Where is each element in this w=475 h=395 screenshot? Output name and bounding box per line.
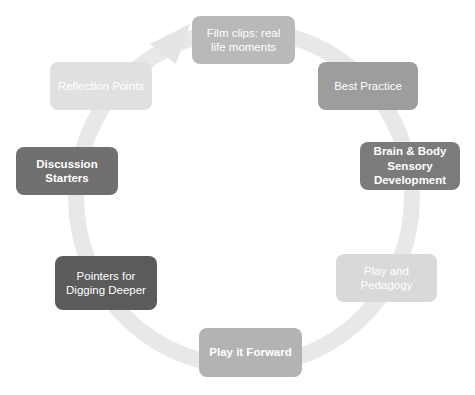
node-best-practice: Best Practice: [318, 62, 418, 110]
node-label: Play it Forward: [209, 345, 291, 359]
node-label: Play and Pedagogy: [342, 264, 431, 293]
node-film-clips: Film clips: real life moments: [192, 16, 295, 64]
node-label: Reflection Points: [58, 79, 144, 93]
node-discussion-starters: Discussion Starters: [16, 147, 118, 195]
node-pointers: Pointers for Digging Deeper: [55, 256, 157, 310]
node-label: Discussion Starters: [22, 157, 112, 186]
node-label: Film clips: real life moments: [198, 26, 289, 55]
node-label: Best Practice: [334, 79, 402, 93]
node-label: Brain & Body Sensory Development: [366, 144, 454, 187]
node-reflection-points: Reflection Points: [50, 62, 152, 110]
node-label: Pointers for Digging Deeper: [61, 269, 151, 298]
node-play-it-forward: Play it Forward: [199, 328, 302, 377]
node-play-pedagogy: Play and Pedagogy: [336, 254, 437, 302]
node-brain-body: Brain & Body Sensory Development: [360, 142, 460, 190]
